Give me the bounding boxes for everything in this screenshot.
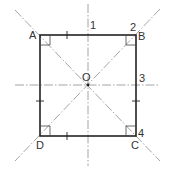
marker-2: 2	[130, 21, 136, 33]
square-diagram: A B C D O 1 2 3 4	[0, 0, 170, 172]
label-b: B	[138, 30, 145, 42]
label-a: A	[29, 29, 37, 41]
label-c: C	[131, 139, 139, 151]
label-d: D	[36, 139, 44, 151]
right-angle-a	[40, 35, 50, 45]
marker-3: 3	[139, 72, 145, 84]
label-o: O	[82, 71, 91, 83]
marker-1: 1	[90, 19, 96, 31]
center-point	[87, 84, 90, 87]
right-angle-d	[40, 126, 50, 136]
marker-4: 4	[138, 127, 144, 139]
